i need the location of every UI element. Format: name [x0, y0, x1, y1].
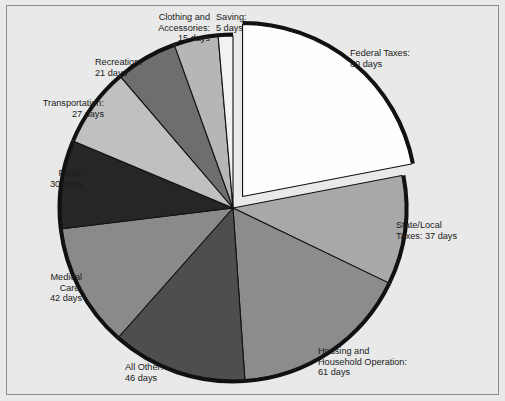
slice-label-all-other: All Other: 46 days — [125, 362, 235, 383]
slice-label-saving: Saving: 5 days — [216, 12, 286, 33]
pie-chart-figure: Federal Taxes: 80 days State/Local Taxes… — [0, 0, 505, 401]
slice-label-recreation: Recreation: 21 days — [95, 57, 191, 78]
slice-label-food: Food: 30 days — [8, 168, 82, 189]
slice-label-transportation: Transportation: 27 days — [8, 98, 104, 119]
slice-label-medical-care: Medical Care: 42 days — [8, 272, 82, 304]
slice-label-clothing-and-accessories: Clothing and Accessories: 15 days — [128, 12, 210, 44]
slice-label-federal-taxes: Federal Taxes: 80 days — [350, 48, 490, 69]
slice-label-state-local-taxes: State/Local Taxes: 37 days — [396, 220, 501, 241]
slice-label-housing-household-operation: Housing and Household Operation: 61 days — [318, 346, 468, 378]
